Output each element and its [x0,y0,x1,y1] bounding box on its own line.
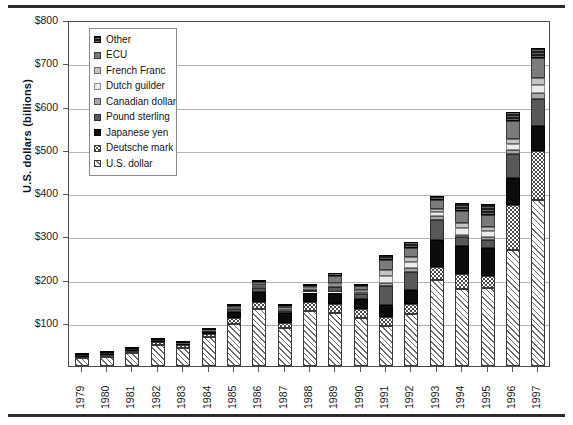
x-tick-label: 1997 [531,386,541,409]
bar-segment [75,353,89,355]
bar-segment [481,237,495,240]
bar-segment [354,294,368,298]
x-tick-label: 1990 [354,386,364,409]
bar-segment [481,215,495,227]
bar[interactable] [303,284,317,366]
legend-item: French Franc [94,63,172,79]
bar[interactable] [506,112,520,366]
bar[interactable] [75,354,89,366]
bar-segment [278,313,292,323]
bar-segment [430,220,444,240]
x-tick-label: 1992 [404,386,414,409]
bar-segment [506,154,520,178]
bar[interactable] [531,48,545,366]
bar[interactable] [125,348,139,366]
bar-segment [379,317,393,327]
bar-segment [506,150,520,154]
legend-item: Canadian dollar [94,94,172,110]
bar-segment [354,284,368,287]
bar-segment [506,112,520,122]
legend-item: Dutch guilder [94,79,172,95]
y-axis-tick-labels: $100$200$300$400$500$600$700$800 [10,0,58,425]
bar-segment [354,309,368,318]
bar-segment [506,139,520,144]
page-rule-top [8,5,565,8]
bar[interactable] [227,305,241,366]
x-tick-mark [334,367,335,372]
bar-segment [455,203,469,211]
bar[interactable] [379,255,393,366]
legend-swatch [94,98,101,105]
bar-segment [430,240,444,267]
bar-segment [252,286,266,288]
bar-segment [531,99,545,126]
bar-segment [176,345,190,348]
bar-segment [404,257,418,262]
bar[interactable] [202,328,216,366]
legend-swatch [94,67,101,74]
legend-item: Pound sterling [94,110,172,126]
bar[interactable] [100,352,114,366]
bar[interactable] [481,204,495,366]
x-tick-mark [436,367,437,372]
stacked-bar-chart-figure: U.S. dollars (billions) $100$200$300$400… [0,0,573,425]
bar[interactable] [328,273,342,366]
bar[interactable] [252,280,266,367]
bar-segment [379,270,393,276]
legend-item: ECU [94,48,172,64]
bar-segment [379,276,393,283]
bar-segment [430,280,444,367]
legend-label: U.S. dollar [106,159,153,169]
bar-segment [455,223,469,227]
x-tick-label: 1980 [100,386,110,409]
bar-segment [252,302,266,309]
legend-label: ECU [106,50,127,60]
y-tick-label: $800 [12,15,58,25]
bar[interactable] [354,284,368,366]
x-tick-label: 1981 [125,386,135,409]
bar-segment [100,351,114,353]
bar[interactable] [430,196,444,366]
bar[interactable] [404,242,418,366]
bar-segment [430,209,444,212]
bar-segment [227,312,241,319]
x-tick-label: 1986 [252,386,262,409]
bar[interactable] [455,203,469,366]
y-tick-label: $500 [12,145,58,155]
legend-label: Canadian dollar [106,97,176,107]
x-tick-mark [385,367,386,372]
x-tick-mark [410,367,411,372]
bar-segment [303,284,317,286]
x-tick-mark [512,367,513,372]
bar-segment [202,337,216,366]
x-tick-label: 1989 [328,386,338,409]
bar-segment [531,200,545,367]
bar-segment [151,338,165,340]
bar-segment [531,93,545,99]
x-tick-mark [284,367,285,372]
bar-segment [404,242,418,248]
y-tick-label: $300 [12,231,58,241]
x-tick-mark [131,367,132,372]
legend-label: Other [106,35,131,45]
x-tick-label: 1995 [481,386,491,409]
x-tick-label: 1994 [455,386,465,409]
bar-segment [202,334,216,337]
x-tick-mark [487,367,488,372]
bar[interactable] [151,339,165,366]
bar-segment [481,227,495,231]
chart-legend: OtherECUFrench FrancDutch guilderCanadia… [89,28,177,176]
bar-segment [125,351,139,353]
bar-segment [227,304,241,306]
legend-swatch [94,52,101,59]
bar-segment [252,292,266,302]
legend-swatch [94,36,101,43]
bar-segment [455,237,469,246]
bar-segment [303,290,317,293]
bar-segment [379,255,393,259]
bar-segment [278,323,292,328]
bar[interactable] [176,342,190,366]
bar-segment [430,216,444,220]
legend-item: Other [94,32,172,48]
bar[interactable] [278,304,292,366]
